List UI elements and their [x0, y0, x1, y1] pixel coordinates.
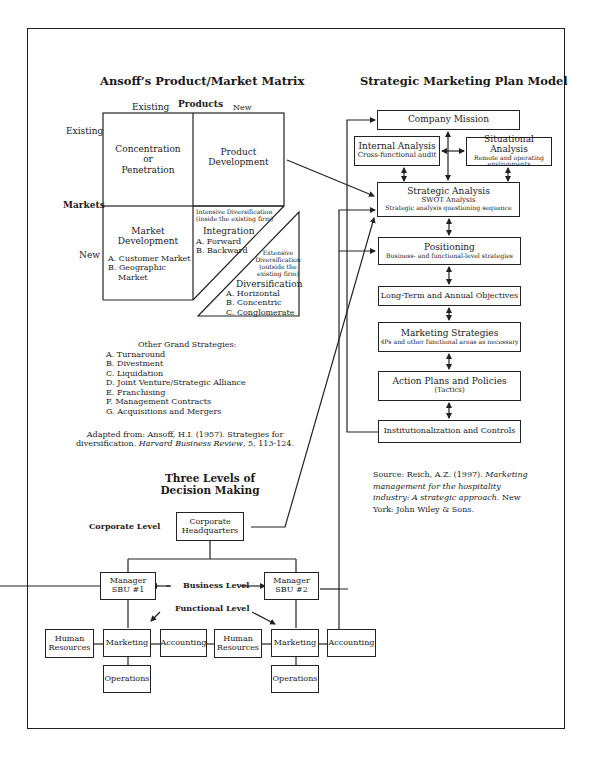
smpm-title: Strategic Marketing Plan Model [360, 75, 560, 88]
corporate-hq-box: Corporate Headquarters [176, 512, 244, 541]
extensive-note: Extensive Diversification (outside the e… [255, 249, 301, 278]
other-strategies-list: A. Turnaround B. Divestment C. Liquidati… [106, 350, 246, 416]
operations-box-2: Operations [271, 665, 319, 693]
functional-level-label: Functional Level [175, 604, 249, 613]
hr-box-2: Human Resources [214, 629, 262, 658]
diversification-title: Diversification [236, 279, 302, 289]
marketing-box-2: Marketing [271, 629, 319, 657]
col-new-label: New [233, 103, 252, 112]
action-plans-box: Action Plans and Policies (Tactics) [378, 371, 521, 401]
institutionalization-box: Institutionalization and Controls [378, 420, 521, 443]
objectives-box: Long-Term and Annual Objectives [378, 286, 521, 306]
smpm-source: Source: Reich, A.Z. (1997). Marketing ma… [373, 469, 528, 515]
products-label: Products [178, 99, 223, 109]
intensive-note: Intensive Diversification (inside the ex… [196, 208, 273, 222]
col-existing-label: Existing [132, 102, 169, 112]
operations-box-1: Operations [103, 665, 151, 693]
marketing-strategies-box: Marketing Strategies 4Ps and other funct… [378, 322, 521, 352]
other-strategies-title: Other Grand Strategies: [138, 340, 236, 349]
marketing-box-1: Marketing [103, 629, 151, 657]
cell-market-development-title: Market Development [104, 226, 192, 247]
markets-label: Markets [63, 200, 105, 210]
company-mission-box: Company Mission [377, 110, 520, 130]
sbu1-box: Manager SBU #1 [100, 572, 156, 600]
accounting-box-2: Accounting [327, 629, 376, 657]
row-existing-label: Existing [66, 126, 103, 136]
corporate-level-label: Corporate Level [89, 522, 160, 531]
sbu2-box: Manager SBU #2 [264, 572, 319, 600]
situational-analysis-box: Situational Analysis Remote and operatin… [466, 137, 552, 166]
cell-product-development: Product Development [194, 147, 283, 168]
ansoff-source: Adapted from: Ansoff, H.I. (1957). Strat… [60, 430, 310, 448]
diversification-items: A. Horizontal B. Concentric C. Conglomer… [226, 289, 294, 317]
business-level-label: Business Level [183, 581, 249, 590]
levels-title: Three Levels of Decision Making [140, 472, 280, 496]
cell-concentration: Concentration or Penetration [104, 144, 192, 175]
positioning-box: Positioning Business- and functional-lev… [378, 237, 521, 265]
ansoff-title: Ansoff’s Product/Market Matrix [100, 75, 300, 88]
integration-items: A. Forward B. Backward [196, 237, 248, 256]
hr-box-1: Human Resources [45, 629, 94, 658]
row-new-label: New [79, 250, 100, 260]
strategic-analysis-box: Strategic Analysis SWOT Analysis Strateg… [377, 182, 520, 217]
accounting-box-1: Accounting [160, 629, 207, 657]
market-development-items: A. Customer Market B. Geographic Market [108, 254, 191, 282]
integration-title: Integration [203, 226, 254, 236]
internal-analysis-box: Internal Analysis Cross-functional audit [354, 136, 440, 166]
